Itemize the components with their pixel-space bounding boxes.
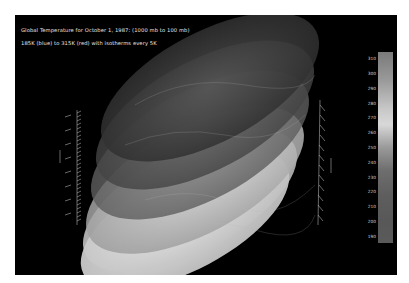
colorbar-label: 290 xyxy=(358,86,376,91)
colorbar-label: 210 xyxy=(358,204,376,209)
colorbar-label: 220 xyxy=(358,189,376,194)
colorbar-label: 240 xyxy=(358,160,376,165)
visualization-panel: Global Temperature for October 1, 1987: … xyxy=(15,15,397,275)
colorbar-label: 300 xyxy=(358,71,376,76)
colorbar xyxy=(378,52,393,243)
colorbar-label: 280 xyxy=(358,101,376,106)
colorbar-label: 230 xyxy=(358,175,376,180)
right-axis xyxy=(318,100,331,225)
stacked-temperature-slices xyxy=(15,15,397,275)
colorbar-label: 270 xyxy=(358,115,376,120)
colorbar-label: 190 xyxy=(358,234,376,239)
left-pressure-axis xyxy=(60,110,81,225)
colorbar-label: 200 xyxy=(358,219,376,224)
colorbar-label: 250 xyxy=(358,145,376,150)
colorbar-label: 310 xyxy=(358,56,376,61)
colorbar-label: 260 xyxy=(358,130,376,135)
